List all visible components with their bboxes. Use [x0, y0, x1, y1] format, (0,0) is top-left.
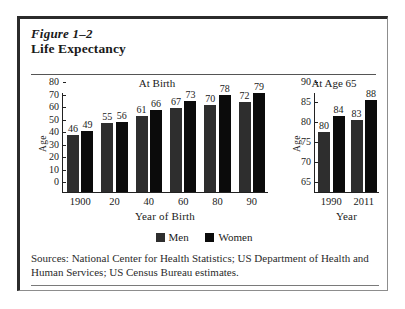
bar-value-label: 46 [68, 123, 78, 134]
bar-women-2011: 88 [365, 100, 377, 192]
bar-women-20: 56 [116, 122, 128, 192]
bar-value-label: 49 [82, 119, 92, 130]
bar-value-label: 72 [240, 90, 250, 101]
x-tick-label: 60 [178, 192, 189, 207]
figure-title: Life Expectancy [31, 41, 376, 57]
bar-value-label: 61 [137, 104, 147, 115]
plot-area-at-birth: 0102030405060708019004649205556406166606… [62, 93, 268, 193]
header-divider [31, 74, 376, 75]
legend-label-men: Men [169, 231, 189, 243]
bar-value-label: 73 [185, 89, 195, 100]
y-tick-label: 50 [49, 115, 63, 125]
y-tick-label: 40 [49, 127, 63, 137]
x-tick-label: 1990 [321, 192, 342, 207]
y-tick-label: 75 [301, 137, 315, 147]
y-tick-label: 60 [49, 102, 63, 112]
x-axis-label-at-age-65: Year [314, 210, 379, 222]
bar-men-1900: 46 [67, 135, 79, 193]
x-tick-label: 90 [247, 192, 258, 207]
bar-men-1990: 80 [318, 132, 330, 192]
bar-value-label: 66 [151, 98, 161, 109]
bar-women-1900: 49 [81, 131, 93, 192]
y-tick-label: 10 [49, 165, 63, 175]
chart-panel-at-age-65: At Age 65 Age 65707580859019908084201183… [282, 77, 386, 227]
legend-swatch-men-icon [156, 233, 165, 242]
y-tick-label: 85 [301, 97, 315, 107]
y-tick-label: 70 [49, 90, 63, 100]
y-axis-label-at-birth: Age [38, 135, 48, 152]
bar-value-label: 83 [352, 108, 362, 119]
x-tick-label: 2011 [353, 192, 374, 207]
y-tick-label: 65 [301, 177, 315, 187]
bar-men-20: 55 [101, 123, 113, 192]
bar-men-40: 61 [136, 116, 148, 192]
legend-item-men: Men [156, 231, 189, 243]
bar-women-40: 66 [150, 110, 162, 193]
bar-value-label: 67 [171, 96, 181, 107]
bar-value-label: 84 [334, 104, 344, 115]
y-tick-label: 30 [49, 140, 63, 150]
x-axis-label-at-birth: Year of Birth [62, 210, 268, 222]
chart-panel-at-birth: At Birth Age 010203040506070801900464920… [28, 77, 276, 227]
y-tick-label: 0 [54, 177, 63, 187]
legend-label-women: Women [218, 231, 252, 243]
figure-header: Figure 1–2 Life Expectancy [31, 26, 376, 57]
bar-value-label: 88 [366, 88, 376, 99]
x-tick-label: 40 [144, 192, 155, 207]
bar-value-label: 56 [117, 110, 127, 121]
figure-number: Figure 1–2 [31, 26, 376, 41]
bar-men-80: 70 [204, 105, 216, 193]
bar-value-label: 55 [102, 111, 112, 122]
charts-container: At Birth Age 010203040506070801900464920… [20, 77, 388, 227]
y-tick-label: 80 [49, 77, 63, 87]
bar-men-90: 72 [239, 102, 251, 192]
x-tick-label: 1900 [70, 192, 91, 207]
bar-value-label: 70 [205, 93, 215, 104]
plot-area-at-age-65: 6570758085901990808420118388 [314, 93, 379, 193]
sources-note: Sources: National Center for Health Stat… [31, 251, 379, 279]
bar-women-60: 73 [184, 101, 196, 192]
bar-women-1990: 84 [333, 116, 345, 192]
bar-men-60: 67 [170, 108, 182, 192]
y-tick-label: 80 [301, 117, 315, 127]
bar-value-label: 79 [254, 81, 264, 92]
bar-value-label: 78 [220, 83, 230, 94]
chart-title-at-birth: At Birth [28, 77, 276, 89]
figure-box: Figure 1–2 Life Expectancy At Birth Age … [17, 16, 388, 291]
bar-value-label: 80 [319, 120, 329, 131]
sources-divider [31, 285, 379, 286]
bar-women-90: 79 [253, 93, 265, 192]
x-tick-label: 80 [212, 192, 223, 207]
legend-swatch-women-icon [205, 233, 214, 242]
chart-legend: Men Women [20, 231, 388, 243]
y-tick-label: 70 [301, 157, 315, 167]
y-tick-label: 20 [49, 152, 63, 162]
bar-women-80: 78 [219, 95, 231, 193]
legend-item-women: Women [205, 231, 252, 243]
bar-men-2011: 83 [351, 120, 363, 192]
y-tick-label: 90 [301, 77, 315, 87]
x-tick-label: 20 [109, 192, 120, 207]
